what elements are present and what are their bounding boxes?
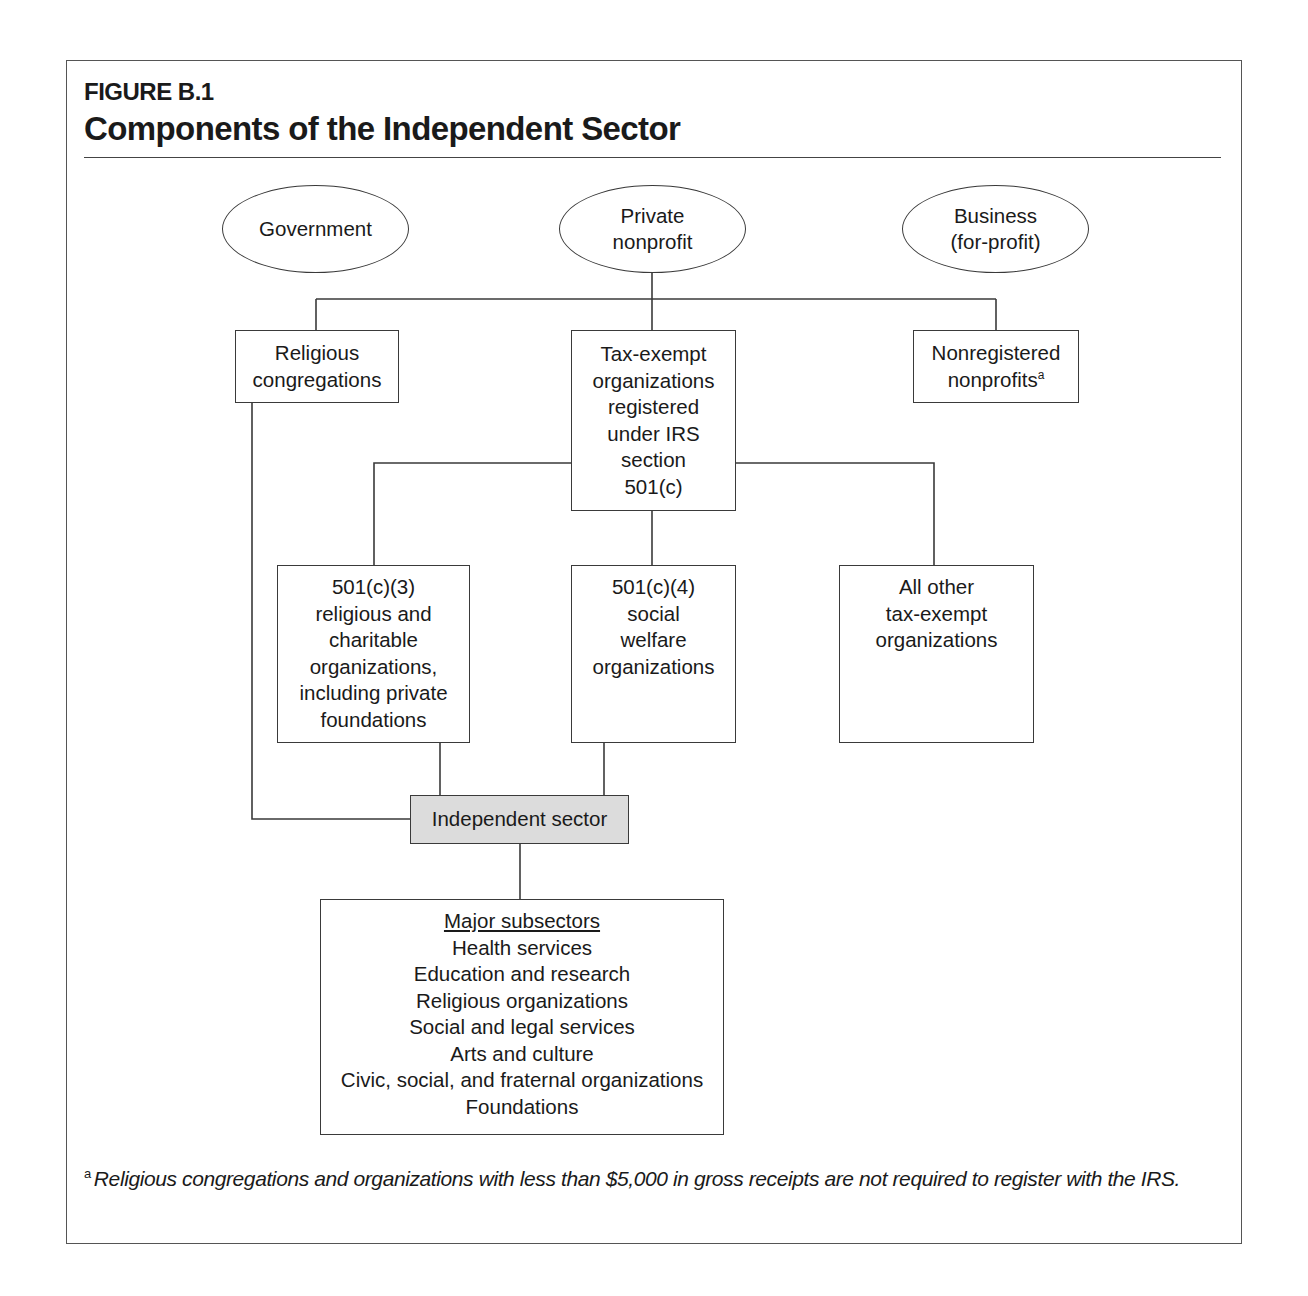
- footnote-text: Religious congregations and organization…: [94, 1167, 1180, 1190]
- subsectors-heading: Major subsectors: [444, 908, 600, 935]
- node-501c3: 501(c)(3) religious and charitable organ…: [277, 565, 470, 743]
- node-label-with-footnote: nonprofitsa: [948, 367, 1045, 394]
- node-label: (for-profit): [951, 229, 1041, 256]
- node-nonregistered-nonprofits: Nonregistered nonprofitsa: [913, 330, 1079, 403]
- node-label: social: [627, 601, 679, 628]
- subsector-item: Social and legal services: [409, 1014, 635, 1041]
- node-label: Independent sector: [432, 806, 608, 833]
- connector-to-other: [735, 463, 934, 565]
- node-label: under IRS: [607, 421, 699, 448]
- node-501c4: 501(c)(4) social welfare organizations: [571, 565, 736, 743]
- node-label: nonprofit: [613, 229, 693, 256]
- footnote-marker: a: [1038, 368, 1045, 382]
- node-label: organizations,: [310, 654, 438, 681]
- node-label: including private: [299, 680, 447, 707]
- node-all-other-tax-exempt: All other tax-exempt organizations: [839, 565, 1034, 743]
- node-independent-sector: Independent sector: [410, 795, 629, 844]
- footnote-marker: a: [84, 1166, 91, 1181]
- node-label: Religious: [275, 340, 359, 367]
- node-label: tax-exempt: [886, 601, 987, 628]
- node-label: religious and: [315, 601, 431, 628]
- node-label: Nonregistered: [932, 340, 1061, 367]
- node-religious-congregations: Religious congregations: [235, 330, 399, 403]
- node-tax-exempt-501c: Tax-exempt organizations registered unde…: [571, 330, 736, 511]
- node-label: 501(c): [624, 474, 682, 501]
- node-label: congregations: [253, 367, 382, 394]
- node-label: charitable: [329, 627, 418, 654]
- node-label: foundations: [320, 707, 426, 734]
- subsector-item: Arts and culture: [450, 1041, 594, 1068]
- connector-to-c3: [374, 463, 572, 565]
- node-label: Business: [954, 203, 1037, 230]
- subsector-item: Religious organizations: [416, 988, 628, 1015]
- footnote: aReligious congregations and organizatio…: [84, 1160, 1224, 1198]
- subsector-item: Civic, social, and fraternal organizatio…: [341, 1067, 703, 1094]
- node-label: Government: [259, 216, 372, 243]
- node-business: Business (for-profit): [902, 185, 1089, 273]
- node-label: All other: [899, 574, 974, 601]
- node-label: registered: [608, 394, 699, 421]
- node-private-nonprofit: Private nonprofit: [559, 185, 746, 273]
- subsector-item: Foundations: [466, 1094, 579, 1121]
- node-label: Tax-exempt: [601, 341, 707, 368]
- subsector-item: Education and research: [414, 961, 631, 988]
- subsector-item: Health services: [452, 935, 592, 962]
- node-government: Government: [222, 185, 409, 273]
- node-major-subsectors: Major subsectors Health services Educati…: [320, 899, 724, 1135]
- node-label: section: [621, 447, 686, 474]
- node-label: welfare: [620, 627, 686, 654]
- node-label: nonprofits: [948, 368, 1038, 391]
- node-label: Private: [621, 203, 685, 230]
- node-label: organizations: [593, 654, 715, 681]
- node-label: 501(c)(3): [332, 574, 415, 601]
- node-label: organizations: [876, 627, 998, 654]
- node-label: organizations: [593, 368, 715, 395]
- node-label: 501(c)(4): [612, 574, 695, 601]
